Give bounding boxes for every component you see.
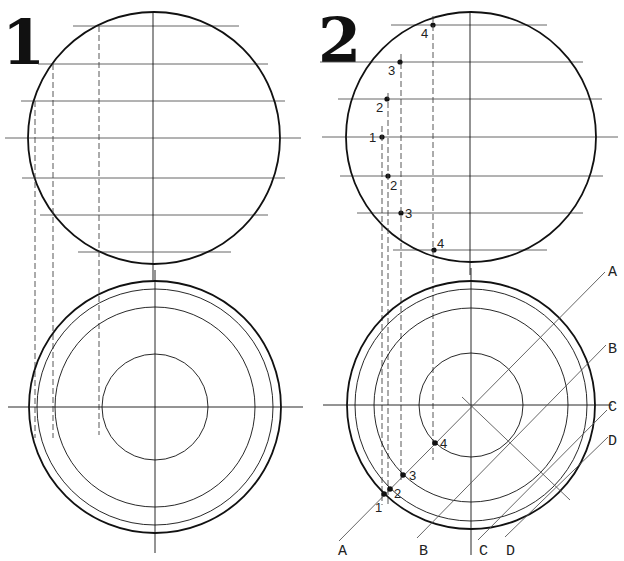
perpendicular-diagonal-line [462,397,570,500]
figure-2-side-view: 4321234 [320,11,618,275]
point-label: 1 [369,130,376,145]
intersection-point [400,472,406,478]
intersection-point [387,486,393,492]
point-label: 3 [409,468,416,483]
intersection-point [384,96,389,101]
intersection-point [432,440,438,446]
section-label: A [608,264,617,281]
point-label: 2 [376,100,383,115]
section-label: D [506,543,515,560]
figure-number-1: 1 [2,6,45,79]
section-line-c [478,410,607,540]
section-label: D [608,433,617,450]
figure-1-top-view [8,270,303,553]
figure-1-projection-lines [35,26,99,438]
section-label: A [338,543,347,560]
section-label: B [608,341,617,358]
figure-2-projection-lines [382,16,433,505]
intersection-point [397,59,402,64]
section-label: B [419,543,428,560]
point-label: 1 [375,500,382,515]
figure-2: 2 4321234 AABBCCDD4321 [318,4,618,560]
section-label: C [608,399,617,416]
figure-2-top-view: AABBCCDD4321 [323,264,617,560]
figure-number-2: 2 [318,4,361,77]
figure-1: 1 [2,6,303,553]
point-label: 4 [437,236,444,251]
point-label: 4 [440,436,447,451]
point-label: 2 [394,486,401,501]
orthographic-projection-drawing: 1 2 4321234 AABBCCDD4321 [0,0,624,561]
point-label: 3 [405,206,412,221]
figure-1-side-view [5,12,301,280]
intersection-point [381,491,387,497]
point-label: 4 [421,26,428,41]
point-label: 3 [388,63,395,78]
intersection-point [431,247,436,252]
section-label: C [479,543,488,560]
point-label: 2 [390,178,397,193]
